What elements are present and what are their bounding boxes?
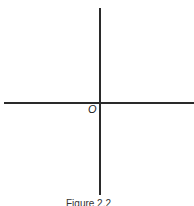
figure-caption: Figure 2.2 <box>66 198 111 206</box>
origin-label: O <box>88 103 97 115</box>
y-axis <box>99 8 101 195</box>
